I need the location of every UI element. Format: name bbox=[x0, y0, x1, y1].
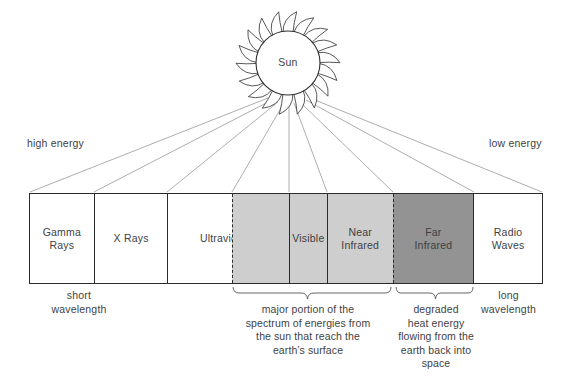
sun-ray-petal bbox=[317, 52, 340, 62]
spectrum-band-far-infrared: FarInfrared bbox=[393, 194, 474, 283]
caption-line-2: heat energy bbox=[396, 317, 476, 331]
spectrum-band-label-visible: Visible bbox=[290, 232, 326, 245]
sun-ray-petal bbox=[279, 94, 293, 115]
caption-line-4: earth back into bbox=[396, 344, 476, 358]
short-wavelength-line-1: short bbox=[29, 289, 129, 303]
spectrum-band-label-far-infrared: FarInfrared bbox=[412, 226, 454, 252]
major-portion-caption: major portion of thespectrum of energies… bbox=[222, 303, 394, 357]
high-energy-label: high energy bbox=[27, 137, 84, 149]
band-label-line-1: Near bbox=[341, 226, 379, 239]
sun-ray-line-3 bbox=[167, 102, 278, 192]
sun-ray-line-8 bbox=[306, 100, 474, 192]
sun-ray-petal bbox=[236, 63, 259, 73]
spectrum-band-ultraviolet: Ultraviolet bbox=[167, 194, 232, 283]
sun-ray-line-2 bbox=[94, 100, 272, 192]
long-wavelength-line-2: wavelength bbox=[474, 303, 543, 317]
band-label-line-2: Infrared bbox=[414, 239, 452, 252]
band-label-line-1: Visible bbox=[292, 232, 324, 245]
spectrum-band-label-radio-waves: RadioWaves bbox=[490, 226, 527, 252]
band-label-line-1: Far bbox=[414, 226, 452, 239]
spectrum-band-radio-waves: RadioWaves bbox=[473, 194, 542, 283]
spectrum-band-label-gamma-rays: GammaRays bbox=[41, 226, 83, 252]
spectrum-band-gamma-rays: GammaRays bbox=[30, 194, 94, 283]
caption-line-1: major portion of the bbox=[222, 303, 394, 317]
long-wavelength-caption: long wavelength bbox=[474, 289, 543, 316]
caption-line-3: flowing from the bbox=[396, 330, 476, 344]
spectrum-band-visible: Visible bbox=[289, 194, 327, 283]
band-label-line-1: Gamma bbox=[43, 226, 81, 239]
band-label-line-1: Radio bbox=[492, 226, 525, 239]
band-label-line-1: X Rays bbox=[114, 232, 149, 245]
band-label-line-2: Waves bbox=[492, 239, 525, 252]
low-energy-label: low energy bbox=[489, 137, 542, 149]
sun-ray-lines bbox=[30, 98, 542, 192]
short-wavelength-line-2: wavelength bbox=[29, 303, 129, 317]
bracket-major-portion bbox=[233, 287, 391, 299]
bracket-degraded-heat bbox=[396, 287, 473, 299]
sun-ray-line-7 bbox=[300, 102, 393, 192]
spectrum-band-x-rays: X Rays bbox=[94, 194, 168, 283]
caption-line-2: spectrum of energies from bbox=[222, 317, 394, 331]
diagram-canvas: Sun high energy low energy GammaRaysX Ra… bbox=[0, 0, 574, 379]
degraded-heat-caption: degradedheat energyflowing from theearth… bbox=[396, 303, 476, 371]
band-label-line-2: Infrared bbox=[341, 239, 379, 252]
long-wavelength-line-1: long bbox=[474, 289, 543, 303]
electromagnetic-spectrum-bar: GammaRaysX RaysUltravioletVisibleNearInf… bbox=[29, 193, 543, 284]
caption-line-5: space bbox=[396, 357, 476, 371]
band-label-line-2: Rays bbox=[43, 239, 81, 252]
caption-line-1: degraded bbox=[396, 303, 476, 317]
sun-label: Sun bbox=[258, 56, 318, 68]
spectrum-band-uv-absorbed bbox=[232, 194, 289, 283]
short-wavelength-caption: short wavelength bbox=[29, 289, 129, 316]
spectrum-band-label-near-infrared: NearInfrared bbox=[339, 226, 381, 252]
caption-line-3: the sun that reach the bbox=[222, 330, 394, 344]
spectrum-band-near-infrared: NearInfrared bbox=[327, 194, 393, 283]
sun-ray-petal bbox=[283, 12, 297, 33]
spectrum-band-label-x-rays: X Rays bbox=[112, 232, 151, 245]
caption-line-4: earth’s surface bbox=[222, 344, 394, 358]
sun-ray-line-6 bbox=[294, 103, 327, 192]
